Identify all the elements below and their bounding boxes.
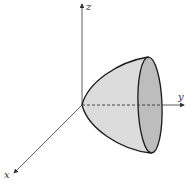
paraboloid-diagram: z x y — [0, 0, 194, 187]
z-axis-label: z — [85, 1, 92, 12]
x-axis — [14, 105, 82, 173]
y-axis-label: y — [177, 91, 184, 102]
x-axis-label: x — [4, 169, 10, 180]
